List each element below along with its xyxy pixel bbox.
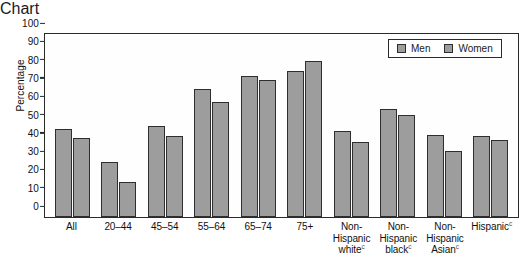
x-axis-label: Non-Hispanicwhitec: [328, 221, 375, 257]
y-axis-tick: 40: [28, 127, 45, 138]
legend-label: Men: [411, 43, 430, 54]
bar-group: [375, 34, 422, 217]
x-axis-label-line: All: [48, 221, 95, 233]
bar-group: [49, 34, 96, 217]
footnote-marker: c: [456, 243, 459, 250]
bar-group: [96, 34, 143, 217]
chart-legend: MenWomen: [388, 39, 502, 58]
bar[interactable]: [101, 162, 118, 217]
x-axis-labels: All20–4445–5455–6465–7475+Non-Hispanicwh…: [44, 221, 519, 257]
footnote-marker: c: [509, 220, 512, 227]
bar[interactable]: [427, 135, 444, 217]
bar[interactable]: [305, 61, 322, 217]
y-axis-tick: 90: [28, 36, 45, 47]
x-axis-label-line: 45–54: [141, 221, 188, 233]
x-axis-label-line: Hispanic: [422, 233, 469, 245]
bar[interactable]: [398, 115, 415, 217]
bar[interactable]: [241, 76, 258, 217]
bar[interactable]: [380, 109, 397, 217]
bar[interactable]: [166, 136, 183, 217]
footnote-marker: c: [408, 243, 411, 250]
bar-group: [235, 34, 282, 217]
x-axis-label-line: 20–44: [95, 221, 142, 233]
y-axis-tick: 0: [33, 201, 45, 212]
y-axis-tick: 50: [28, 109, 45, 120]
bar[interactable]: [491, 140, 508, 217]
bar[interactable]: [445, 151, 462, 217]
bar-group: [468, 34, 515, 217]
x-axis-label: Non-Hispanicblackc: [375, 221, 422, 257]
x-axis-label-line: Hispanic: [375, 233, 422, 245]
bar[interactable]: [148, 126, 165, 218]
bar[interactable]: [334, 131, 351, 217]
bar-group: [421, 34, 468, 217]
x-axis-label: All: [48, 221, 95, 257]
legend-label: Women: [458, 43, 492, 54]
bar[interactable]: [352, 142, 369, 217]
bar-group: [328, 34, 375, 217]
x-axis-label-line: Hispanic: [328, 233, 375, 245]
bar[interactable]: [55, 129, 72, 217]
x-axis-label: 45–54: [141, 221, 188, 257]
y-axis-tick: 30: [28, 146, 45, 157]
x-axis-label-line: Non-: [328, 221, 375, 233]
x-axis-label: 55–64: [188, 221, 235, 257]
legend-item[interactable]: Women: [444, 43, 492, 54]
y-axis-tick: 10: [28, 182, 45, 193]
y-axis-tick: 60: [28, 91, 45, 102]
plot-area: 0102030405060708090100: [44, 33, 519, 218]
legend-swatch-icon: [397, 44, 406, 53]
bar-group: [282, 34, 329, 217]
x-axis-label-line: Asianc: [422, 244, 469, 256]
bars-layer: [45, 34, 518, 217]
bar[interactable]: [73, 138, 90, 217]
x-axis-label-line: Non-: [375, 221, 422, 233]
bar-group: [142, 34, 189, 217]
bar-chart: Percentage 0102030405060708090100 MenWom…: [0, 18, 523, 257]
y-axis-tick: 100: [22, 18, 45, 29]
bar[interactable]: [473, 136, 490, 217]
x-axis-label-line: 75+: [282, 221, 329, 233]
x-axis-label: 75+: [282, 221, 329, 257]
bar-group: [189, 34, 236, 217]
x-axis-label-line: Hispanicc: [468, 221, 515, 233]
x-axis-label-line: Non-: [422, 221, 469, 233]
bar[interactable]: [259, 80, 276, 217]
bar[interactable]: [119, 182, 136, 217]
x-axis-label: Non-HispanicAsianc: [422, 221, 469, 257]
bar[interactable]: [194, 89, 211, 217]
footnote-marker: c: [361, 243, 364, 250]
y-axis-tick: 20: [28, 164, 45, 175]
y-axis-tick: 80: [28, 54, 45, 65]
bar[interactable]: [287, 71, 304, 217]
x-axis-label-line: 65–74: [235, 221, 282, 233]
legend-swatch-icon: [444, 44, 453, 53]
x-axis-label-line: 55–64: [188, 221, 235, 233]
legend-item[interactable]: Men: [397, 43, 430, 54]
x-axis-label-line: whitec: [328, 244, 375, 256]
x-axis-label-line: blackc: [375, 244, 422, 256]
y-axis-tick: 70: [28, 72, 45, 83]
y-axis-title: Percentage: [15, 36, 26, 136]
x-axis-label: 65–74: [235, 221, 282, 257]
bar[interactable]: [212, 102, 229, 217]
x-axis-label: Hispanicc: [468, 221, 515, 257]
x-axis-label: 20–44: [95, 221, 142, 257]
